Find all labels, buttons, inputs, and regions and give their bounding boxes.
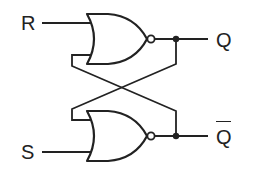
nor-gate-top (87, 14, 147, 64)
input-label-r: R (21, 13, 35, 33)
input-label-s: S (21, 142, 34, 162)
output-label-q: Q (216, 30, 232, 50)
nor-gate-bottom (87, 111, 147, 161)
inverter-bubble-bottom (147, 132, 154, 139)
junction-dot-q (173, 36, 179, 42)
qbar-overline (216, 121, 231, 122)
junction-dot-qbar (173, 133, 179, 139)
inverter-bubble-top (147, 35, 154, 42)
output-label-qbar: Q (216, 127, 232, 147)
